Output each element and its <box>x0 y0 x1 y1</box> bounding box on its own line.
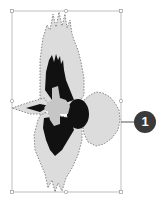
handle-bottom-middle[interactable] <box>64 190 67 193</box>
dark-head <box>67 99 89 129</box>
handle-bottom-left[interactable] <box>11 191 14 194</box>
handle-bottom-right[interactable] <box>120 191 123 194</box>
handle-top-left[interactable] <box>11 10 14 13</box>
handle-top-right[interactable] <box>120 10 123 13</box>
bird-shape[interactable] <box>12 12 120 192</box>
diagram-canvas: 1 <box>0 0 163 203</box>
handle-top-middle[interactable] <box>64 9 67 12</box>
handle-middle-left[interactable] <box>10 99 13 102</box>
callout-badge-1: 1 <box>134 111 156 133</box>
handle-middle-right[interactable] <box>119 99 122 102</box>
